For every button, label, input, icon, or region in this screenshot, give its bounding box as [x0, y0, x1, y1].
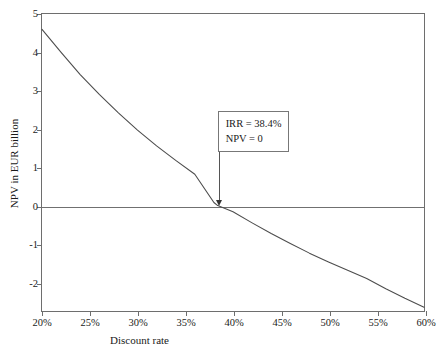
y-tick-label: -1 [29, 240, 38, 251]
npv-discount-rate-chart: 543210-1-2 20%25%30%35%40%45%50%55%60% I… [0, 0, 443, 357]
x-tick-label: 60% [416, 318, 435, 329]
x-tick-label: 25% [80, 318, 99, 329]
annotation-arrow-icon [216, 200, 222, 206]
x-tick-mark [186, 311, 187, 316]
x-tick-label: 55% [368, 318, 387, 329]
x-tick-mark [330, 311, 331, 316]
x-tick-mark [138, 311, 139, 316]
x-tick-mark [426, 311, 427, 316]
irr-annotation-box: IRR = 38.4% NPV = 0 [218, 111, 290, 152]
y-axis-title: NPV in EUR billion [9, 114, 20, 214]
y-tick-label: 2 [33, 124, 38, 135]
x-tick-label: 20% [32, 318, 51, 329]
y-tick-label: -2 [29, 279, 38, 290]
y-tick-label: 5 [33, 9, 38, 20]
x-tick-label: 35% [176, 318, 195, 329]
x-tick-mark [42, 311, 43, 316]
y-tick-label: 3 [33, 86, 38, 97]
x-tick-label: 50% [320, 318, 339, 329]
y-tick-label: 1 [33, 163, 38, 174]
x-tick-mark [90, 311, 91, 316]
y-tick-label: 4 [33, 47, 38, 58]
annotation-leader-line [219, 149, 220, 202]
x-tick-label: 45% [272, 318, 291, 329]
y-tick-label: 0 [33, 202, 38, 213]
x-tick-label: 30% [128, 318, 147, 329]
plot-area: 543210-1-2 20%25%30%35%40%45%50%55%60% I… [41, 13, 425, 312]
npv-curve [42, 14, 424, 311]
annotation-line-irr: IRR = 38.4% [226, 116, 282, 131]
x-tick-mark [378, 311, 379, 316]
annotation-line-npv: NPV = 0 [226, 131, 282, 146]
x-tick-mark [234, 311, 235, 316]
x-axis-title: Discount rate [110, 335, 169, 346]
x-tick-label: 40% [224, 318, 243, 329]
x-tick-mark [282, 311, 283, 316]
